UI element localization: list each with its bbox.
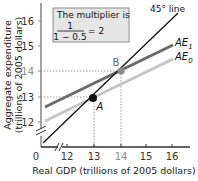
y-tick-14: 14 (21, 66, 34, 77)
point-a-label: A (96, 101, 104, 112)
ae1-line (45, 45, 173, 107)
y-axis-title-line1: Aggregate expenditure (2, 20, 13, 130)
y-tick-12: 12 (21, 117, 34, 128)
ae1-label: AE1 (174, 37, 193, 51)
multiplier-box: The multiplier is 1 1 − 0.5 = 2 (53, 8, 130, 42)
y-tick-13: 13 (21, 92, 34, 103)
x-axis-title: Real GDP (trillions of 2005 dollars) (32, 165, 196, 176)
multiplier-box-title: The multiplier is (56, 10, 130, 20)
ae0-label: AE0 (174, 51, 193, 65)
multiplier-denominator: 1 − 0.5 (53, 32, 86, 42)
point-b (117, 67, 124, 74)
ae0-line (45, 59, 173, 121)
multiplier-result: = 2 (88, 26, 104, 36)
x-tick-0: 0 (33, 151, 39, 162)
x-tick-13: 13 (88, 151, 101, 162)
x-tick-12: 12 (61, 151, 74, 162)
x-tick-15: 15 (140, 151, 153, 162)
point-b-label: B (113, 57, 120, 68)
y-tick-15: 15 (21, 41, 34, 52)
y-tick-16: 16 (21, 16, 34, 27)
x-tick-16: 16 (166, 151, 179, 162)
x-tick-14: 14 (115, 151, 128, 162)
line-45-label: 45° line (150, 4, 186, 14)
multiplier-numerator: 1 (67, 21, 73, 31)
chart-root: Aggregate expenditure (trillions of 2005… (0, 0, 198, 181)
guide-lines (41, 71, 121, 147)
